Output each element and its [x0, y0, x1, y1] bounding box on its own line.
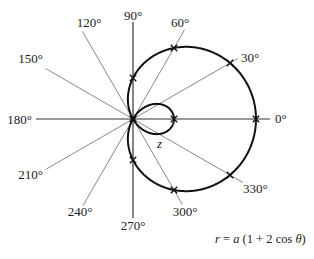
angle-label-240: 240° — [68, 204, 93, 219]
angle-label-90: 90° — [124, 8, 142, 23]
ray-330 — [133, 119, 243, 183]
ray-210 — [46, 119, 133, 170]
limacon-diagram: 0°30°60°90°120°150°180°210°240°270°300°3… — [0, 0, 314, 259]
ray-60 — [133, 30, 185, 119]
angle-label-30: 30° — [241, 50, 259, 65]
angle-label-330: 330° — [243, 181, 268, 196]
angle-label-210: 210° — [18, 167, 43, 182]
ray-150 — [46, 69, 133, 120]
eq-equals: = — [220, 232, 233, 246]
angle-label-120: 120° — [77, 15, 102, 30]
point-marker-330 — [227, 172, 233, 178]
pole — [131, 117, 136, 122]
point-label-z: z — [156, 136, 162, 151]
ray-120 — [83, 32, 134, 119]
angle-labels: 0°30°60°90°120°150°180°210°240°270°300°3… — [7, 8, 286, 233]
angle-rays — [36, 22, 270, 218]
angle-label-60: 60° — [171, 15, 189, 30]
angle-label-180: 180° — [7, 112, 32, 127]
angle-label-0: 0° — [275, 111, 287, 126]
eq-close: ) — [302, 232, 306, 246]
eq-rest: (1 + 2 cos — [239, 232, 295, 246]
angle-label-300: 300° — [173, 204, 198, 219]
angle-label-150: 150° — [18, 51, 43, 66]
ray-240 — [83, 119, 133, 206]
angle-label-270: 270° — [121, 218, 146, 233]
ray-30 — [133, 59, 238, 120]
point-marker-30 — [227, 60, 233, 66]
equation: r = a (1 + 2 cos θ) — [215, 232, 306, 246]
